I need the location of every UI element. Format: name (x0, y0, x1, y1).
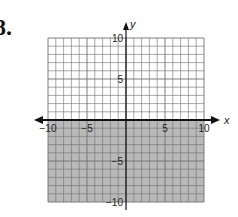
up-arrow-icon (123, 22, 129, 30)
inequality-graph: xy−10−5510105−5−10 (0, 0, 238, 217)
x-tick-label: −5 (81, 123, 93, 134)
y-tick-label: −5 (112, 156, 124, 167)
y-tick-label: −10 (106, 197, 123, 208)
x-axis-label: x (223, 114, 230, 126)
right-arrow-icon (211, 116, 220, 124)
y-tick-label: 10 (112, 33, 124, 44)
x-tick-label: −10 (40, 123, 57, 134)
y-axis-label: y (129, 18, 137, 30)
x-tick-label: 10 (198, 123, 210, 134)
y-tick-label: 5 (117, 74, 123, 85)
x-tick-label: 5 (162, 123, 168, 134)
